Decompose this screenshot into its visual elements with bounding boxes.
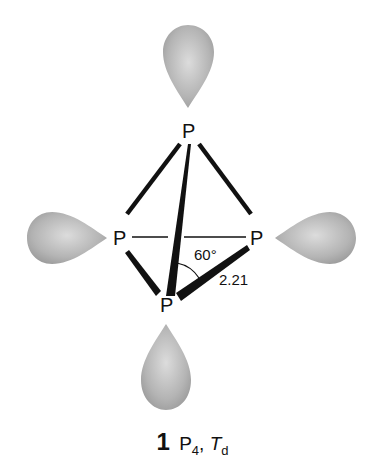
atom-p-top: P bbox=[182, 120, 195, 142]
figure-caption: 1 P4, Td bbox=[0, 428, 385, 458]
compound-number: 1 bbox=[157, 428, 170, 455]
point-group: Td bbox=[210, 433, 229, 454]
caption-separator: , bbox=[199, 433, 204, 454]
bond-top-right bbox=[199, 144, 251, 214]
bond-length-label: 2.21 bbox=[219, 271, 248, 288]
angle-arc bbox=[177, 263, 199, 278]
lone-pair-lobe-right bbox=[275, 212, 356, 264]
bond-top-left bbox=[127, 144, 180, 214]
angle-label: 60° bbox=[194, 246, 217, 263]
bond-left-bottom bbox=[125, 250, 161, 296]
lone-pair-lobe-top bbox=[163, 25, 214, 108]
atom-p-left: P bbox=[113, 227, 126, 249]
atom-p-right: P bbox=[250, 227, 263, 249]
p4-structure-diagram: P P P P 60° 2.21 bbox=[0, 0, 385, 476]
bond-top-bottom bbox=[166, 144, 191, 296]
lone-pair-lobe-bottom bbox=[141, 324, 191, 410]
formula: P4 bbox=[179, 433, 199, 454]
atom-p-bottom: P bbox=[160, 294, 173, 316]
lone-pair-lobe-left bbox=[27, 212, 107, 264]
